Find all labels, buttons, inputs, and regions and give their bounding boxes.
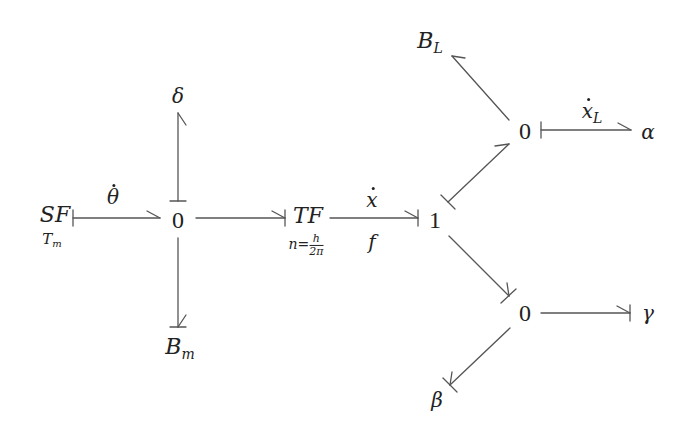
junction0-lower: 0 bbox=[519, 301, 531, 325]
delta-label: δ bbox=[172, 86, 184, 106]
bond-junction0-lower-to-gamma bbox=[541, 305, 630, 321]
junction0-left: 0 bbox=[172, 208, 184, 232]
bond-junction1-to-junction0-lower bbox=[449, 236, 516, 303]
damper-bm-label: Bm bbox=[165, 336, 194, 361]
transformer-label: TF bbox=[293, 205, 323, 227]
bond-junction0-upper-to-bl bbox=[452, 56, 509, 120]
f-label: f bbox=[368, 232, 375, 252]
x-dot-label: x bbox=[366, 190, 377, 210]
bond-tf-to-junction1 bbox=[330, 210, 418, 226]
gamma-label: γ bbox=[642, 303, 654, 323]
bond-junction0-to-bm bbox=[170, 238, 186, 327]
junction1: 1 bbox=[429, 208, 441, 232]
transformer-param: n=h2π bbox=[289, 233, 324, 257]
bond-junction0-to-tf bbox=[196, 210, 285, 226]
bond-junction0-lower-to-beta bbox=[443, 328, 510, 392]
bond-sf-to-junction0 bbox=[73, 210, 160, 226]
theta-dot-label: θ bbox=[107, 187, 119, 207]
source-flow-param: Tm bbox=[42, 232, 62, 249]
bond-graph-diagram: SF Tm 0 δ Bm TF n=h2π 1 0 BL α 0 γ β θ x… bbox=[0, 0, 686, 438]
bond-junction0-to-delta bbox=[170, 113, 186, 201]
damper-bl-label: BL bbox=[417, 30, 442, 55]
beta-label: β bbox=[431, 390, 443, 410]
bond-junction1-to-junction0-upper bbox=[441, 144, 509, 209]
junction0-upper: 0 bbox=[519, 119, 531, 143]
bond-lines bbox=[0, 0, 686, 438]
xl-dot-label: xL bbox=[582, 101, 603, 125]
source-flow-label: SF bbox=[40, 204, 70, 226]
alpha-label: α bbox=[641, 122, 655, 142]
